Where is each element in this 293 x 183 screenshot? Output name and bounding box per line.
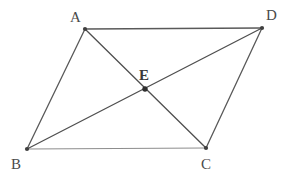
vertex-label-A: A: [70, 10, 81, 25]
vertex-dot-B: [25, 147, 29, 151]
geometry-figure: A D B C E: [0, 0, 293, 183]
vertex-dot-A: [83, 27, 87, 31]
edge-DC: [206, 28, 262, 148]
vertex-label-B: B: [11, 157, 21, 172]
vertex-dot-D: [260, 26, 264, 30]
intersection-dot-E: [142, 86, 147, 91]
vertex-label-D: D: [266, 8, 277, 23]
vertex-label-E: E: [139, 68, 149, 83]
figure-canvas: [0, 0, 293, 183]
edge-BC: [27, 148, 206, 149]
vertex-label-C: C: [201, 157, 211, 172]
edge-AD: [85, 28, 262, 29]
edge-AB: [27, 29, 85, 149]
vertex-dot-C: [204, 146, 208, 150]
